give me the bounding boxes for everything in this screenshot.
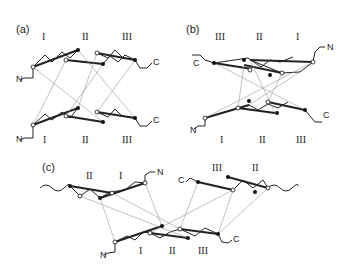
strand-label: II: [256, 32, 263, 42]
strand-label: I: [42, 32, 45, 42]
strand-label: I: [296, 32, 299, 42]
diagram-lines: [0, 0, 341, 267]
strand-label: I: [43, 135, 46, 145]
strand-label: II: [169, 246, 176, 256]
n-terminus: N: [16, 135, 23, 144]
strand-label: II: [252, 163, 259, 173]
strand-label: III: [212, 163, 222, 173]
c-terminus: C: [323, 111, 330, 120]
strand-label: III: [296, 135, 306, 145]
strand-label: I: [220, 135, 223, 145]
strand-label: III: [122, 135, 132, 145]
n-terminus: N: [100, 251, 107, 260]
c-terminus: C: [178, 176, 185, 185]
strand-label: III: [122, 32, 132, 42]
c-terminus: C: [153, 116, 160, 125]
panel-a-label: (a): [16, 24, 29, 35]
c-terminus: C: [233, 235, 240, 244]
c-terminus: C: [193, 59, 200, 68]
n-terminus: N: [157, 168, 164, 177]
strand-label: I: [119, 171, 122, 181]
panel-c-label: (c): [42, 162, 55, 173]
strand-label: III: [198, 246, 208, 256]
strand-label: III: [215, 32, 225, 42]
n-terminus: N: [327, 43, 334, 52]
strand-label: II: [82, 135, 89, 145]
strand-label: II: [82, 32, 89, 42]
strand-label: I: [139, 246, 142, 256]
n-terminus: N: [190, 126, 197, 135]
c-terminus: C: [153, 58, 160, 67]
panel-b-label: (b): [186, 24, 199, 35]
strand-label: II: [86, 171, 93, 181]
strand-label: II: [259, 135, 266, 145]
n-terminus: N: [16, 75, 23, 84]
